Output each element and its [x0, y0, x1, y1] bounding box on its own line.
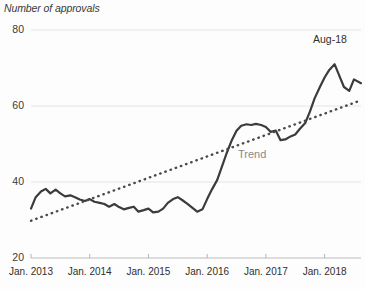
chart-canvas — [0, 0, 365, 289]
data-series-approvals — [31, 64, 361, 212]
x-tick-label-2017: Jan. 2017 — [238, 266, 294, 277]
x-tick-label-2014: Jan. 2014 — [62, 266, 118, 277]
x-tick-label-2015: Jan. 2015 — [120, 266, 176, 277]
chart-container: Number of approvals 20406080 Jan. 2013Ja… — [0, 0, 365, 289]
y-tick-label-80: 80 — [2, 23, 24, 35]
y-tick-label-60: 60 — [2, 99, 24, 111]
trend-series-line — [31, 100, 361, 220]
x-tick-label-2016: Jan. 2016 — [179, 266, 235, 277]
x-tick-label-2013: Jan. 2013 — [3, 266, 59, 277]
y-tick-label-20: 20 — [2, 251, 24, 263]
x-tick-label-2018: Jan. 2018 — [297, 266, 353, 277]
last-point-label: Aug-18 — [313, 33, 347, 45]
trend-series-label: Trend — [238, 148, 266, 160]
y-tick-label-40: 40 — [2, 175, 24, 187]
